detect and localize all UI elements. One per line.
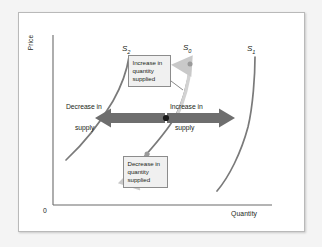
decrease-supply-label-line2: supply (75, 124, 94, 131)
figure-card: Price Quantity 0 S2 S0 S1 Decrease in su… (18, 12, 305, 232)
increase-quantity-leader-line (171, 81, 183, 90)
callout-decrease-quantity-supplied: Decrease in quantity supplied (123, 156, 168, 188)
callout-increase-line1: Increase in (133, 59, 168, 67)
curve-label-s2: S2 (122, 44, 130, 55)
increase-supply-label-line2: supply (175, 124, 194, 131)
equilibrium-point-marker (163, 115, 169, 121)
callout-decrease-line2: quantity (128, 168, 165, 176)
increase-supply-label-line1: Increase in (170, 103, 203, 110)
y-axis-label: Price (27, 23, 34, 63)
curve-label-s0-sub: 0 (188, 48, 191, 54)
callout-decrease-line3: supplied (128, 176, 165, 184)
figure-root: Price Quantity 0 S2 S0 S1 Decrease in su… (0, 0, 322, 247)
x-axis-label: Quantity (231, 210, 257, 217)
curve-label-s1-sub: 1 (252, 49, 255, 55)
curve-label-s2-sub: 2 (127, 49, 130, 55)
decrease-supply-label-line1: Decrease in (66, 103, 102, 110)
callout-decrease-line1: Decrease in (128, 160, 165, 168)
curve-label-s0: S0 (183, 43, 191, 54)
increase-quantity-guide-arrow (176, 66, 190, 118)
decrease-supply-arrow (95, 109, 165, 128)
callout-increase-line2: quantity (133, 67, 168, 75)
supply-curve-chart (19, 13, 305, 232)
origin-label: 0 (43, 207, 47, 214)
curve-label-s1: S1 (247, 44, 255, 55)
upper-quantity-point-marker (188, 62, 193, 67)
callout-increase-line3: supplied (133, 75, 168, 83)
callout-increase-quantity-supplied: Increase in quantity supplied (128, 55, 171, 87)
